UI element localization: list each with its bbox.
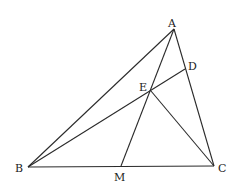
- segment-bd: [28, 69, 185, 167]
- segment-am: [121, 29, 174, 166]
- segment-ab: [28, 29, 174, 167]
- label-m: M: [114, 171, 125, 184]
- label-a: A: [167, 17, 177, 30]
- label-c: C: [218, 162, 226, 175]
- label-e: E: [139, 81, 147, 94]
- label-d: D: [188, 60, 197, 73]
- segment-ec: [151, 91, 214, 166]
- segment-bc: [28, 166, 214, 167]
- label-b: B: [15, 162, 23, 175]
- segment-ac: [174, 29, 214, 166]
- geometry-diagram: A B C D E M: [0, 0, 236, 187]
